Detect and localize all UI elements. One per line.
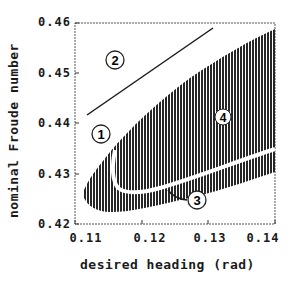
x-axis-label: desired heading (rad) (80, 257, 255, 272)
x-tick-label: 0.14 (247, 231, 280, 245)
svg-text:4: 4 (220, 111, 227, 125)
y-tick-label: 0.43 (38, 167, 71, 181)
y-tick-label: 0.45 (38, 66, 71, 80)
y-axis-label: nominal Froude number (6, 43, 21, 218)
region-label-4: 4 (215, 109, 231, 125)
region-label-3: 3 (188, 191, 206, 209)
y-axis-ticks (75, 23, 79, 224)
region-label-1: 1 (92, 125, 110, 143)
y-tick-label: 0.42 (38, 217, 71, 231)
svg-text:3: 3 (193, 193, 200, 208)
svg-text:1: 1 (97, 127, 104, 142)
region-label-2: 2 (106, 51, 124, 69)
x-tick-label: 0.11 (70, 231, 103, 245)
x-tick-label: 0.13 (194, 231, 227, 245)
y-tick-label: 0.44 (38, 116, 71, 130)
x-axis-ticks (75, 220, 275, 224)
plot-area: 2 1 4 3 (0, 0, 297, 298)
x-tick-label: 0.12 (134, 231, 167, 245)
svg-text:2: 2 (111, 53, 118, 68)
y-tick-label: 0.46 (38, 15, 71, 29)
